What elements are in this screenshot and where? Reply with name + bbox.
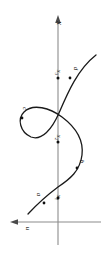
curve-point-dot-d [69,77,72,80]
figure-canvas: x u x3 x2 x1 a b c d [0,0,105,253]
horizontal-axis-label: u [24,223,31,235]
root-label-x2: x2 [55,130,62,146]
vertical-axis-label: x [55,17,63,29]
curve-point-label-c: c [21,104,28,114]
root-label-x2-sub: 2 [54,138,59,141]
root-label-x1-sub: 1 [54,198,59,201]
root-label-x3-sub: 3 [54,73,59,76]
figure-graphics [0,0,105,253]
curve-point-dot-c [21,117,24,120]
curve-point-label-b: b [78,157,85,167]
root-label-x1: x1 [55,190,62,206]
root-label-x3: x3 [55,65,62,81]
curve-point-label-d: d [72,64,79,74]
horizontal-axis-arrowhead [10,219,18,225]
curve-point-dot-b [76,167,79,170]
curve-point-dot-a [43,202,46,205]
curve-point-label-a: a [35,190,42,200]
